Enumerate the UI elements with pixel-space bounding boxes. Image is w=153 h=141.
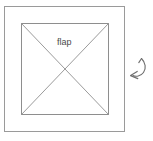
curved-rotate-arrow-icon <box>131 59 146 79</box>
diagram-canvas: flap <box>0 0 153 141</box>
arrow-tail-path <box>139 59 142 63</box>
arrow-head-path <box>131 71 138 78</box>
flap-label: flap <box>57 37 72 47</box>
flap-diagram: flap <box>0 0 153 141</box>
